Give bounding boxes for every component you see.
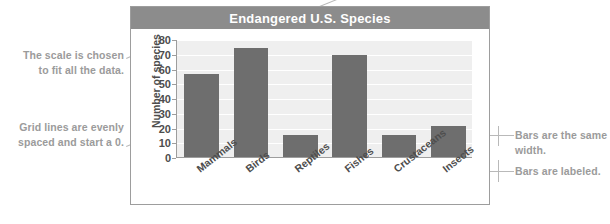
leader-line-bars-width xyxy=(490,135,514,136)
annotation-bars-width-line2: width. xyxy=(515,143,610,158)
gridline xyxy=(177,40,472,41)
annotation-gridlines: Grid lines are evenly spaced and start a… xyxy=(0,120,124,150)
y-axis-tick-mark xyxy=(172,84,176,85)
y-axis-tick-mark xyxy=(172,143,176,144)
gridline xyxy=(177,129,472,130)
chart-title: Endangered U.S. Species xyxy=(131,7,489,29)
annotation-scale: The scale is chosen to fit all the data. xyxy=(4,48,124,78)
annotation-bars-width-line1: Bars are the same xyxy=(515,128,610,143)
y-axis-tick-mark xyxy=(172,70,176,71)
bar-mammals xyxy=(184,74,219,157)
gridline xyxy=(177,84,472,85)
gridline xyxy=(177,114,472,115)
annotation-scale-line2: to fit all the data. xyxy=(4,63,124,78)
gridline xyxy=(177,55,472,56)
gridline xyxy=(177,99,472,100)
y-axis-tick-mark xyxy=(172,55,176,56)
annotation-gridlines-line2: spaced and start a 0. xyxy=(0,135,124,150)
plot-wrap: 01020304050607080 MammalsBirdsReptilesFi… xyxy=(176,40,472,158)
annotation-gridlines-line1: Grid lines are evenly xyxy=(0,120,124,135)
y-axis-tick-mark xyxy=(172,40,176,41)
y-axis-tick-mark xyxy=(172,99,176,100)
bar-fishes xyxy=(332,55,367,157)
y-axis-tick-mark xyxy=(172,158,176,159)
leader-line-bars-width-vertical xyxy=(498,126,499,146)
annotation-bars-width: Bars are the same width. xyxy=(515,128,610,158)
y-axis-tick-mark xyxy=(172,129,176,130)
annotation-bars-labeled: Bars are labeled. xyxy=(515,164,610,179)
annotation-bars-labeled-text: Bars are labeled. xyxy=(515,164,610,179)
y-axis-tick-mark xyxy=(172,114,176,115)
bar-birds xyxy=(234,48,269,157)
chart-frame: Endangered U.S. Species Number of specie… xyxy=(130,6,490,205)
annotation-scale-line1: The scale is chosen xyxy=(4,48,124,63)
gridline xyxy=(177,70,472,71)
